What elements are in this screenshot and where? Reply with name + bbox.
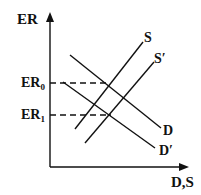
er0-label: ER0 [21,76,45,92]
er0-base: ER [21,75,40,90]
x-axis-arrow-icon [179,163,189,171]
x-axis-label: D,S [171,175,194,190]
d-label: D [163,124,173,138]
y-axis-label: ER [17,12,38,27]
er1-sub: 1 [40,114,45,124]
diagram-canvas [0,0,201,195]
s-label: S [144,31,152,45]
y-axis-arrow-icon [46,12,54,22]
er1-label: ER1 [21,108,45,124]
d-prime-label: D′ [159,144,173,158]
er1-base: ER [21,107,40,122]
demand-curve-d-prime [63,82,155,148]
s-prime-label: S′ [154,52,166,66]
er0-sub: 0 [40,82,45,92]
